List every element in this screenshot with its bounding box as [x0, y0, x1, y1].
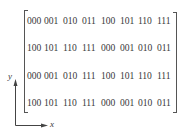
y-axis-arrow-icon: [14, 79, 18, 126]
y-axis-label: y: [8, 72, 12, 81]
x-axis-label: x: [50, 120, 54, 129]
x-axis-arrow-icon: [16, 124, 49, 128]
axes: [0, 0, 186, 133]
